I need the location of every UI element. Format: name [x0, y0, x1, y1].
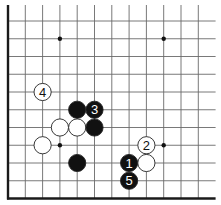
- black-stone: [69, 154, 86, 171]
- black-stone-icon: [86, 119, 103, 136]
- white-stone: 4: [34, 83, 51, 100]
- move-number-label: 1: [125, 156, 132, 171]
- black-stone: 3: [86, 101, 103, 118]
- black-stone-icon: [69, 101, 86, 118]
- move-number-label: 2: [143, 138, 150, 153]
- board-grid: [7, 5, 216, 200]
- white-stone: 2: [138, 137, 155, 154]
- black-stone: [86, 119, 103, 136]
- star-point-icon: [58, 143, 62, 147]
- star-point-icon: [162, 143, 166, 147]
- move-number-label: 4: [39, 85, 46, 100]
- go-board-diagram: 43215: [0, 0, 221, 205]
- black-stone: 1: [121, 154, 138, 171]
- white-stone: [138, 154, 155, 171]
- white-stone-icon: [138, 154, 155, 171]
- white-stone-icon: [69, 119, 86, 136]
- white-stone-icon: [51, 119, 68, 136]
- black-stone-icon: [69, 154, 86, 171]
- black-stone: 5: [121, 172, 138, 189]
- white-stone: [51, 119, 68, 136]
- star-point-icon: [162, 37, 166, 41]
- white-stone: [69, 119, 86, 136]
- white-stone: [34, 137, 51, 154]
- star-point-icon: [58, 37, 62, 41]
- move-number-label: 3: [91, 102, 98, 117]
- move-number-label: 5: [125, 173, 132, 188]
- black-stone: [69, 101, 86, 118]
- white-stone-icon: [34, 137, 51, 154]
